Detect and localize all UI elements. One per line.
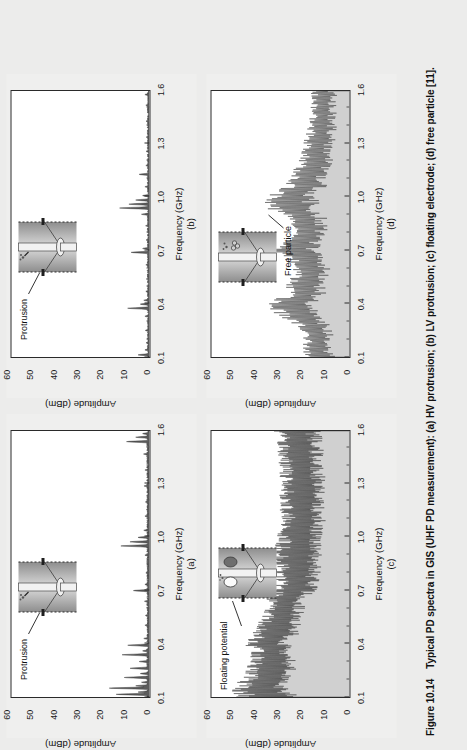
panel-d-leader-line: [268, 214, 284, 228]
panel-d-annotation: Free particle: [282, 226, 292, 276]
panel-d-xtickmark-minor: [346, 178, 349, 179]
panel-a-xtickmark-minor: [146, 625, 149, 626]
panel-b-xlabel: Frequency (GHz): [172, 188, 183, 261]
figure-panels-container: Amplitude (dBm) Frequency (GHz) (a) Prot…: [6, 66, 406, 738]
panel-b-xtickmark-0.7: [144, 249, 149, 250]
panel-c-xtickmark-1.3: [344, 482, 349, 483]
panel-b-xtickmark-minor: [146, 178, 149, 179]
figure-caption: Figure 10.14Typical PD spectra in GIS (U…: [424, 16, 435, 736]
panel-c-xtickmark-minor: [346, 571, 349, 572]
panel-b-xtickmark-minor: [146, 106, 149, 107]
panel-b-xtick-1.3: 1.3: [150, 138, 165, 150]
panel-d-xtick-1.3: 1.3: [350, 138, 365, 150]
panel-b-xtickmark-minor: [146, 124, 149, 125]
panel-c: Amplitude (dBm) Frequency (GHz) (c) Floa…: [206, 414, 396, 738]
panel-d-ytick-60: 60: [201, 364, 211, 380]
panel-a-xtickmark-minor: [146, 464, 149, 465]
panel-d-xtickmark-minor: [346, 214, 349, 215]
panel-a-xtick-0.1: 0.1: [150, 692, 165, 704]
panel-a-xtickmark-minor: [146, 679, 149, 680]
panel-a-xtickmark-1.3: [144, 482, 149, 483]
panel-d-xtickmark-minor: [346, 285, 349, 286]
panel-c-ytick-60: 60: [201, 704, 211, 720]
panel-b-ytick-60: 60: [1, 364, 11, 380]
panel-d-ytickmark-30: [281, 357, 282, 358]
panel-b-ytick-20: 20: [94, 364, 104, 380]
panel-b-ylabel: Amplitude (dBm): [45, 399, 116, 410]
panel-b-xtick-0.7: 0.7: [150, 245, 165, 257]
panel-c-xtickmark-minor: [346, 464, 349, 465]
panel-d-ytickmark-20: [304, 357, 305, 358]
panel-c-ytickmark-20: [304, 697, 305, 698]
figure-number: Figure 10.14: [424, 679, 435, 736]
panel-b-ytick-40: 40: [48, 364, 58, 380]
panel-d-xtick-1.6: 1.6: [350, 84, 365, 96]
panel-b-ytickmark-10: [127, 357, 128, 358]
panel-b-ytickmark-40: [57, 357, 58, 358]
panel-d-xtickmark-minor: [346, 106, 349, 107]
panel-d-xtickmark-minor: [346, 124, 349, 125]
panel-a-ytickmark-10: [127, 697, 128, 698]
panel-c-letter: (c): [384, 558, 395, 569]
panel-a-leader-line: [28, 612, 40, 634]
panel-d-ytickmark-50: [234, 357, 235, 358]
panel-b-xtick-1.0: 1.0: [150, 191, 165, 203]
panel-d-xtick-0.7: 0.7: [350, 245, 365, 257]
panel-c-xtickmark-minor: [346, 554, 349, 555]
panel-b-annotation: Protrusion: [18, 299, 28, 340]
panel-d-xtickmark-0.1: [344, 357, 349, 358]
panel-d-xtickmark-0.7: [344, 249, 349, 250]
panel-a: Amplitude (dBm) Frequency (GHz) (a) Prot…: [6, 414, 196, 738]
panel-c-xtick-0.4: 0.4: [350, 638, 365, 650]
panel-a-xtickmark-minor: [146, 446, 149, 447]
panel-d-xtickmark-1.3: [344, 142, 349, 143]
panel-d-xtickmark-minor: [346, 321, 349, 322]
panel-b-ytick-30: 30: [71, 364, 81, 380]
panel-d-letter: (d): [384, 218, 395, 230]
panel-a-ytickmark-40: [57, 697, 58, 698]
panel-d-xtick-1.0: 1.0: [350, 191, 365, 203]
panel-c-xtickmark-minor: [346, 518, 349, 519]
panel-d-ytick-50: 50: [224, 364, 234, 380]
panel-b-xtickmark-0.1: [144, 357, 149, 358]
panel-d-ytickmark-40: [257, 357, 258, 358]
panel-d-xtick-0.4: 0.4: [350, 298, 365, 310]
panel-a-ytickmark-20: [104, 697, 105, 698]
gis-free-particle-icon: [214, 226, 280, 288]
panel-a-xtickmark-minor: [146, 500, 149, 501]
panel-d-xtickmark-minor: [346, 160, 349, 161]
panel-d-xtickmark-minor: [346, 339, 349, 340]
panel-b-xtickmark-minor: [146, 339, 149, 340]
panel-c-xtickmark-minor: [346, 679, 349, 680]
panel-a-ytick-0: 0: [141, 704, 151, 715]
panel-b-xtickmark-minor: [146, 160, 149, 161]
panel-b-xtickmark-minor: [146, 285, 149, 286]
panel-a-ylabel: Amplitude (dBm): [45, 739, 116, 750]
panel-c-ylabel: Amplitude (dBm): [245, 739, 316, 750]
panel-d-ytick-40: 40: [248, 364, 258, 380]
panel-a-ytick-50: 50: [24, 704, 34, 720]
panel-c-xtickmark-0.1: [344, 697, 349, 698]
gis-lv-protrusion-icon: [14, 216, 80, 278]
panel-c-xtickmark-1.0: [344, 536, 349, 537]
panel-c-leader-line: [232, 600, 242, 626]
panel-c-ytickmark-30: [281, 697, 282, 698]
panel-c-xtickmark-minor: [346, 500, 349, 501]
panel-b-xtick-0.1: 0.1: [150, 352, 165, 364]
panel-b-ytickmark-50: [34, 357, 35, 358]
panel-a-ytick-10: 10: [118, 704, 128, 720]
panel-c-xtick-0.1: 0.1: [350, 692, 365, 704]
gis-hv-protrusion-icon: [14, 556, 80, 618]
panel-b-xtickmark-minor: [146, 267, 149, 268]
panel-c-xtick-1.6: 1.6: [350, 424, 365, 436]
panel-c-xtick-1.3: 1.3: [350, 478, 365, 490]
panel-a-xtickmark-minor: [146, 571, 149, 572]
panel-b: Amplitude (dBm) Frequency (GHz) (b) Prot…: [6, 74, 196, 398]
panel-a-xtickmark-0.1: [144, 697, 149, 698]
figure-caption-text: Typical PD spectra in GIS (UHF PD measur…: [424, 67, 435, 668]
panel-d-xtickmark-0.4: [344, 303, 349, 304]
panel-a-xtick-0.4: 0.4: [150, 638, 165, 650]
panel-c-ytick-10: 10: [318, 704, 328, 720]
panel-b-ytick-50: 50: [24, 364, 34, 380]
